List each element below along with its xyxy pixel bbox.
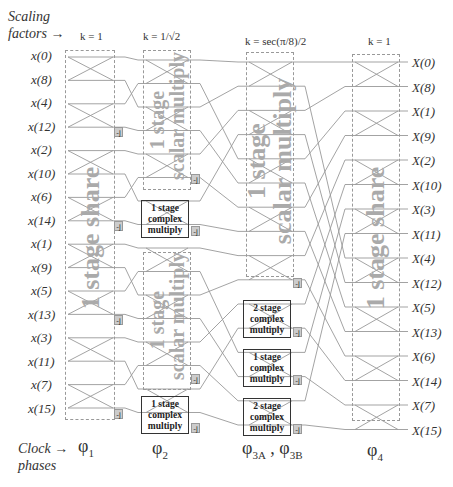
phase-1: φ1 <box>78 436 94 459</box>
phase-sub: 1 <box>88 447 94 459</box>
output-label: X(15) <box>412 423 442 439</box>
output-label: X(8) <box>412 80 435 96</box>
output-label: X(0) <box>412 55 435 71</box>
twiddle-j-box: -j <box>293 375 302 385</box>
input-label: x(4) <box>31 95 52 111</box>
phase-sym: φ <box>242 438 252 458</box>
input-label: x(5) <box>31 283 52 299</box>
input-label: x(14) <box>28 213 55 229</box>
input-label: x(3) <box>31 330 52 346</box>
clock-line1: Clock → <box>18 440 68 457</box>
phase-sub: 4 <box>377 451 383 463</box>
cm-l3: multiply <box>244 325 290 336</box>
input-label: x(13) <box>28 307 55 323</box>
output-label: X(3) <box>412 202 435 218</box>
input-label: x(6) <box>31 189 52 205</box>
output-label: X(5) <box>412 300 435 316</box>
input-label: x(7) <box>31 377 52 393</box>
input-label: x(9) <box>31 260 52 276</box>
cm-l2: complex <box>244 314 290 325</box>
phase-sub: 3B <box>290 449 303 461</box>
complex-multiply-s3b: 1 stage complex multiply <box>243 349 291 387</box>
input-label: x(11) <box>28 354 54 370</box>
input-label: x(15) <box>28 401 55 417</box>
phase-sep: , <box>266 438 280 458</box>
cm-l2: complex <box>244 412 290 423</box>
output-label: X(4) <box>412 251 435 267</box>
cm-l1: 2 stage <box>244 401 290 412</box>
complex-multiply-s3c: 2 stage complex multiply <box>243 398 291 436</box>
stage2-bottom-label: 1 stage scalar multiply <box>147 260 187 380</box>
twiddle-j-box: -j <box>191 374 200 384</box>
stage3-l1: 1 stage <box>244 76 270 246</box>
input-label: x(0) <box>31 48 52 64</box>
phase-sym: φ <box>367 440 377 460</box>
input-label: x(10) <box>28 166 55 182</box>
clock-phases-label: Clock → phases <box>18 440 68 474</box>
twiddle-j-box: -j <box>114 221 123 231</box>
twiddle-j-box: -j <box>293 278 302 288</box>
twiddle-j-box: -j <box>114 409 123 419</box>
cm-l3: multiply <box>244 374 290 385</box>
phase-sym: φ <box>78 436 88 456</box>
phase-3: φ3A , φ3B <box>242 438 303 461</box>
phase-sub: 2 <box>162 449 168 461</box>
output-label: X(1) <box>412 104 435 120</box>
stage2-bot-l1: 1 stage <box>147 260 167 380</box>
output-label: X(12) <box>412 276 442 292</box>
twiddle-j-box: -j <box>191 226 200 236</box>
complex-multiply-s2b: 1 stage complex multiply <box>141 396 189 434</box>
stage2-top-l1: 1 stage <box>147 60 167 180</box>
cm-l3: multiply <box>244 423 290 434</box>
phase-sym: φ <box>279 438 289 458</box>
input-label: x(12) <box>28 119 55 135</box>
output-label: X(6) <box>412 349 435 365</box>
stage2-top-label: 1 stage scalar multiply <box>147 60 187 180</box>
output-label: X(2) <box>412 153 435 169</box>
clock-line2: phases <box>18 457 68 474</box>
cm-l3: multiply <box>142 421 188 432</box>
twiddle-j-box: -j <box>114 315 123 325</box>
cm-l1: 1 stage <box>142 203 188 214</box>
stage3-label: 1 stage scalar multiply <box>244 76 296 246</box>
stage3-l2: scalar multiply <box>270 76 296 246</box>
phase-sym: φ <box>152 438 162 458</box>
output-label: X(11) <box>412 227 441 243</box>
input-label: x(8) <box>31 72 52 88</box>
twiddle-j-box: -j <box>293 424 302 434</box>
fft-pipeline-diagram: Scaling factors → k = 1 k = 1/√2 k = sec… <box>0 0 453 487</box>
cm-l2: complex <box>142 214 188 225</box>
output-label: X(9) <box>412 129 435 145</box>
phase-2: φ2 <box>152 438 168 461</box>
phase-sub: 3A <box>252 449 265 461</box>
stage1-label: 1 stage share <box>78 153 104 323</box>
twiddle-j-box: -j <box>293 327 302 337</box>
cm-l2: complex <box>142 410 188 421</box>
complex-multiply-s3a: 2 stage complex multiply <box>243 300 291 338</box>
output-label: X(7) <box>412 398 435 414</box>
complex-multiply-s2a: 1 stage complex multiply <box>141 200 189 238</box>
output-label: X(14) <box>412 374 442 390</box>
input-label: x(1) <box>31 236 52 252</box>
cm-l1: 2 stage <box>244 303 290 314</box>
cm-l2: complex <box>244 363 290 374</box>
stage4-label: 1 stage share <box>363 153 389 323</box>
twiddle-j-box: -j <box>191 423 200 433</box>
cm-l3: multiply <box>142 225 188 236</box>
stage2-top-l2: scalar multiply <box>167 60 187 180</box>
stage2-bot-l2: scalar multiply <box>167 260 187 380</box>
output-label: X(13) <box>412 325 442 341</box>
twiddle-j-box: -j <box>114 127 123 137</box>
cm-l1: 1 stage <box>244 352 290 363</box>
phase-4: φ4 <box>367 440 383 463</box>
input-label: x(2) <box>31 142 52 158</box>
twiddle-j-box: -j <box>191 174 200 184</box>
output-label: X(10) <box>412 178 442 194</box>
cm-l1: 1 stage <box>142 399 188 410</box>
